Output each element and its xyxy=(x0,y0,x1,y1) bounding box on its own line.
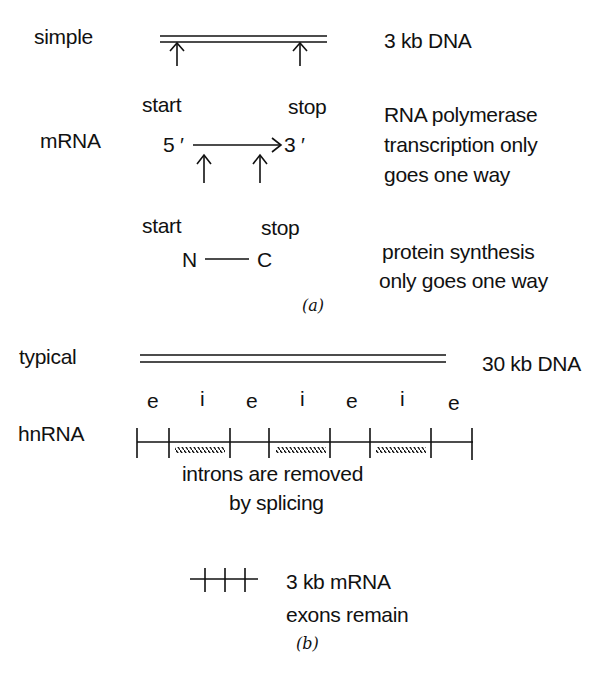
intron-hatch-marks xyxy=(175,447,426,453)
mrna-start-stop-arrow-icons xyxy=(197,155,267,183)
mrna-direction-arrow-icon xyxy=(193,138,281,152)
diagram-line-art xyxy=(0,0,614,673)
spliced-mrna-line xyxy=(190,568,258,592)
simple-dna-double-line xyxy=(160,36,327,42)
simple-dna-arrow-icons xyxy=(170,43,307,66)
typical-dna-double-line xyxy=(140,355,446,362)
hnrna-gene-line xyxy=(137,428,473,460)
